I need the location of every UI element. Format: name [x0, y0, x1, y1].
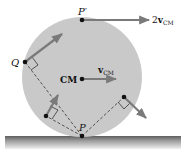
ground-surface: [5, 136, 181, 149]
label-cm: CM: [60, 75, 77, 85]
label-2vcm: 2vCM: [152, 15, 174, 26]
point-q: [23, 60, 28, 65]
rolling-disk-diagram: P′ 2vCM vCM CM Q P: [0, 0, 187, 154]
label-2vcm-subscript: CM: [163, 19, 174, 26]
point-p-prime: [80, 18, 85, 23]
label-vcm-subscript: CM: [103, 69, 114, 76]
label-p: P: [78, 122, 86, 133]
point-right: [122, 95, 127, 100]
label-p-prime: P′: [77, 6, 88, 17]
point-p: [80, 134, 85, 139]
point-lower-left: [44, 114, 49, 119]
label-q: Q: [11, 57, 19, 68]
point-cm: [80, 77, 85, 82]
